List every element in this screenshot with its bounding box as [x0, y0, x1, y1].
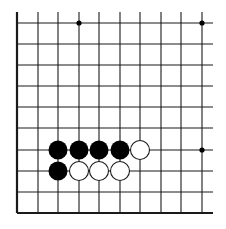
- black-stone[interactable]: [111, 141, 130, 160]
- grid-lines: [17, 12, 213, 213]
- star-point-icon: [76, 20, 81, 25]
- black-stone[interactable]: [49, 141, 68, 160]
- black-stone[interactable]: [49, 162, 68, 181]
- go-board[interactable]: [0, 0, 226, 229]
- black-stone[interactable]: [70, 141, 89, 160]
- star-point-icon: [199, 20, 204, 25]
- white-stone[interactable]: [131, 141, 150, 160]
- white-stone[interactable]: [111, 162, 130, 181]
- black-stone[interactable]: [90, 141, 109, 160]
- go-board-canvas[interactable]: [0, 0, 226, 229]
- white-stone[interactable]: [70, 162, 89, 181]
- star-point-icon: [199, 147, 204, 152]
- white-stone[interactable]: [90, 162, 109, 181]
